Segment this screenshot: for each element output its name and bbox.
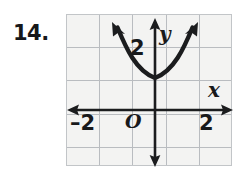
origin-label: O: [125, 112, 142, 131]
x-axis-tick-label-2: 2: [199, 113, 214, 134]
figure-page: 14. 2: [0, 0, 248, 173]
y-axis-name-label: y: [159, 24, 171, 44]
x-axis-name-label: x: [208, 80, 220, 100]
x-axis-tick-label-neg2: –2: [70, 113, 95, 134]
problem-number-label: 14.: [13, 23, 49, 44]
coordinate-graph-figure: 2 y –2 O 2 x: [66, 14, 232, 166]
y-axis-tick-label-2: 2: [130, 38, 145, 59]
